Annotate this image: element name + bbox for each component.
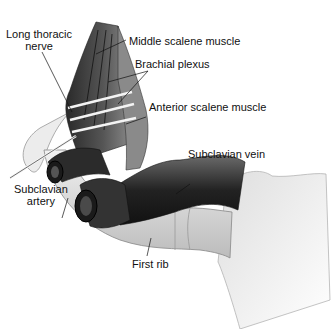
label-brachial-plexus: Brachial plexus [135, 58, 210, 70]
anterior-scalene-muscle [118, 26, 148, 170]
label-long-thoracic-nerve: Long thoracic nerve [6, 28, 72, 52]
label-subclavian-artery: Subclavian artery [14, 183, 68, 207]
anatomy-diagram: Long thoracic nerve Middle scalene muscl… [0, 0, 332, 329]
label-line-2: nerve [6, 40, 72, 52]
label-anterior-scalene-muscle: Anterior scalene muscle [149, 101, 266, 113]
label-first-rib: First rib [132, 258, 169, 270]
label-middle-scalene-muscle: Middle scalene muscle [129, 35, 240, 47]
vein-cut-end [75, 179, 130, 228]
label-line-1: Subclavian [14, 183, 68, 195]
label-line-1: Long thoracic [6, 28, 72, 40]
label-line-2: artery [14, 195, 68, 207]
label-subclavian-vein: Subclavian vein [188, 148, 265, 160]
